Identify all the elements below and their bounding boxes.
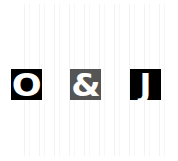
char-2-text: & [71,69,100,100]
captcha-image: O & J [0,0,178,161]
char-1-text: O [12,69,42,100]
captcha-char-1: O [11,69,42,100]
captcha-char-2: & [70,69,101,100]
char-3-text: J [140,69,152,100]
captcha-char-3: J [130,69,161,100]
